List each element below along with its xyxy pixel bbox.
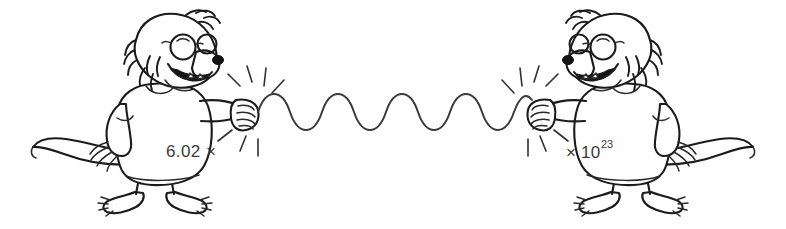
left-mole-character: 6.02 × [31,10,258,216]
wavy-handshake-line [258,94,532,130]
left-shirt-number: 6.02 [166,142,201,161]
left-shirt-operator: × [206,142,216,161]
left-character-right-foot [166,192,212,216]
right-shirt-operator: × [566,143,576,162]
left-character-head [124,10,224,90]
right-character-head [563,10,663,90]
right-character-right-foot [574,192,620,216]
cartoon-canvas: 6.02 × [0,0,786,229]
right-shirt-exponent: 23 [601,138,613,150]
right-character-left-foot [642,192,688,216]
left-character-nose [213,56,224,65]
cartoon-illustration: Two mirrored cartoon mole characters wea… [0,0,786,229]
right-shirt-base: 10 [581,143,601,162]
right-mole-character [528,10,755,216]
right-character-nose [563,56,574,65]
left-character-left-foot [98,192,144,216]
